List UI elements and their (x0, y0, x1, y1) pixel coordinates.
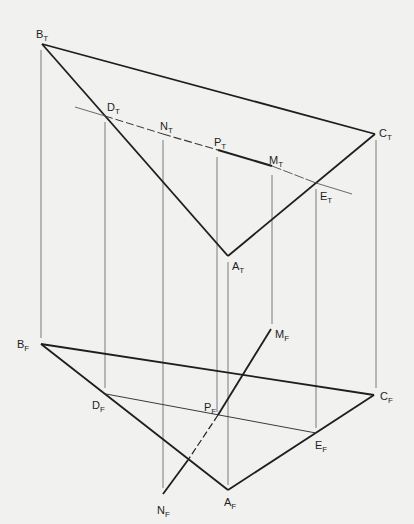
edge-af-cf (228, 395, 374, 490)
projection-diagram: BT DT NT PT MT CT ET AT MF BF CF DF PF E… (0, 0, 414, 524)
label-dt: DT (107, 101, 120, 116)
label-bf: BF (17, 338, 29, 353)
label-mf: MF (275, 328, 289, 343)
top-view-line-mn (75, 107, 352, 194)
point-labels: BT DT NT PT MT CT ET AT MF BF CF DF PF E… (17, 28, 393, 519)
segment-pf-hidden (188, 415, 218, 460)
front-view-triangle (41, 344, 374, 490)
edge-bf-cf (41, 344, 374, 395)
label-bt: BT (36, 28, 48, 43)
segment-nf-visible (163, 460, 188, 494)
segment-nt-pt-hidden (163, 134, 218, 150)
label-pt: PT (214, 136, 226, 151)
label-cf: CF (380, 390, 393, 405)
edge-at-ct (228, 134, 375, 256)
edge-bf-af (41, 344, 228, 490)
label-at: AT (232, 260, 244, 275)
label-nt: NT (160, 120, 173, 135)
projector-lines (41, 50, 376, 488)
segment-pt-mt-visible (218, 150, 272, 166)
label-df: DF (92, 399, 105, 414)
label-nf: NF (157, 504, 170, 519)
edge-bt-at (42, 44, 228, 256)
label-ef: EF (315, 439, 327, 454)
top-view-triangle (42, 44, 375, 256)
label-af: AF (224, 496, 236, 511)
label-ct: CT (379, 127, 392, 142)
edge-bt-ct (42, 44, 375, 134)
label-et: ET (320, 190, 332, 205)
